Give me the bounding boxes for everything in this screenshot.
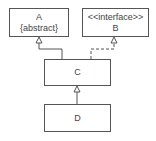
hollow-triangle-arrow-b	[111, 37, 117, 43]
class-stereotype-a: {abstract}	[20, 23, 58, 34]
class-stereotype-b: <<interface>>	[88, 12, 144, 23]
class-name-c: C	[74, 67, 81, 78]
class-name-b: B	[112, 23, 118, 34]
hollow-triangle-arrow-a	[36, 37, 42, 43]
class-name-d: D	[74, 113, 81, 124]
class-box-d: D	[44, 104, 111, 132]
edge-c-to-a	[39, 43, 62, 59]
class-name-a: A	[36, 12, 42, 23]
class-box-a: A {abstract}	[9, 8, 69, 37]
class-box-c: C	[44, 59, 111, 86]
class-box-b: <<interface>> B	[82, 8, 149, 37]
edge-c-to-b	[91, 43, 114, 59]
hollow-triangle-arrow-c	[74, 86, 80, 92]
